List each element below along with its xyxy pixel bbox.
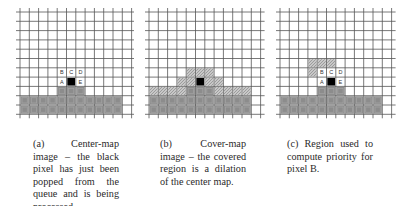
hatched-cell xyxy=(309,68,317,76)
pixel-label-d: D xyxy=(338,69,342,75)
caption-a: (a) Center-map image – the black pixel h… xyxy=(33,138,119,206)
hatched-cell xyxy=(309,59,317,67)
grid-b xyxy=(135,0,269,130)
panel-a: BCDAE (a) Center-map image – the black p… xyxy=(0,0,134,206)
hatched-cell xyxy=(215,78,223,86)
pixel-label-c: C xyxy=(69,69,73,75)
hatched-cell xyxy=(205,68,213,76)
hatched-cell xyxy=(187,78,195,86)
pixel-label-d: D xyxy=(78,69,82,75)
hatched-cell xyxy=(243,87,251,95)
hatched-cell xyxy=(178,78,186,86)
hatched-cell xyxy=(224,87,232,95)
black-pixel xyxy=(196,78,204,86)
hatched-cell xyxy=(187,68,195,76)
hatched-cell xyxy=(178,87,186,95)
hatched-cell xyxy=(205,78,213,86)
hatched-cell xyxy=(327,59,335,67)
black-pixel xyxy=(67,78,75,86)
pixel-label-e: E xyxy=(79,79,83,85)
hatched-cell xyxy=(318,59,326,67)
hatched-cell xyxy=(168,87,176,95)
hatched-cell xyxy=(233,87,241,95)
hatched-cell xyxy=(196,68,204,76)
pixel-label-a: A xyxy=(60,79,64,85)
panel-c: BCDAE (c) Region used to compute priorit… xyxy=(270,0,404,206)
caption-b: (b) Cover-map image – the covered region… xyxy=(160,138,246,188)
pixel-label-e: E xyxy=(339,79,343,85)
hatched-cell xyxy=(215,87,223,95)
grid-a: BCDAE xyxy=(0,0,134,130)
pixel-label-b: B xyxy=(60,69,64,75)
hatched-cell xyxy=(159,87,167,95)
pixel-label-b: B xyxy=(320,69,324,75)
pixel-label-a: A xyxy=(320,79,324,85)
panel-b: (b) Cover-map image – the covered region… xyxy=(135,0,269,206)
hatched-cell xyxy=(150,87,158,95)
pixel-label-c: C xyxy=(329,69,333,75)
black-pixel xyxy=(327,78,335,86)
caption-c: (c) Region used to compute priority for … xyxy=(287,138,373,176)
grid-c: BCDAE xyxy=(270,0,404,130)
